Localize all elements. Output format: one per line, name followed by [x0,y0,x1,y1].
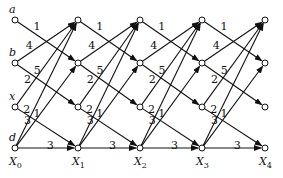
edge-weight-label: 4 [150,39,157,52]
edge-weight-label: 1 [221,20,228,33]
edge-weight-label: 1 [96,107,103,120]
edge-weight-label: 1 [96,20,103,33]
edge-weight-label: 3 [47,139,54,152]
edge-weight-label: 4 [26,39,33,52]
edge-weight-label: 2 [24,73,31,86]
edge-weight-label: 3 [149,114,156,127]
edge-weight-label: 4 [213,39,220,52]
node-a-3 [199,17,205,23]
node-x-0 [12,104,18,110]
node-a-1 [75,17,81,23]
edge-weight-label: 3 [171,139,178,152]
node-d-0 [12,145,18,151]
edge-weight-label: 3 [234,139,241,152]
edge-weight-label: 5 [96,64,103,77]
edge-weight-label: 1 [158,107,165,120]
nodes [12,17,268,151]
node-a-4 [262,17,268,23]
edge-weight-label: 1 [158,20,165,33]
node-x-4 [262,104,268,110]
edge-weight-label: 1 [33,107,40,120]
trellis-diagram: 14521233145212331452123314521233X0X1X2X3… [0,0,283,178]
node-a-0 [12,17,18,23]
stage-label: X3 [195,155,209,170]
node-x-3 [199,104,205,110]
edge-weight-label: 2 [211,73,218,86]
edge-x-a [17,23,76,104]
node-d-3 [199,145,205,151]
row-label-a: a [9,3,16,16]
node-d-1 [75,145,81,151]
edge-weight-label: 1 [220,107,227,120]
edge-weight-label: 3 [87,114,94,127]
node-x-1 [75,104,81,110]
stage-label: X1 [71,155,85,170]
node-b-1 [75,60,81,66]
row-label-d: d [9,131,16,144]
edge-x-a [80,23,138,104]
node-d-4 [262,145,268,151]
row-label-x: x [9,90,16,103]
node-a-2 [137,17,143,23]
edge-weight-label: 3 [109,139,116,152]
edge-x-a [142,23,200,104]
edge-weight-label: 5 [158,64,165,77]
edges [16,22,263,148]
stage-label: X4 [258,155,272,170]
trellis-graph: 14521233145212331452123314521233X0X1X2X3… [0,0,283,178]
stage-label: X0 [8,155,22,170]
edge-weight-label: 2 [149,73,156,86]
edge-weight-label: 2 [87,73,94,86]
edge-weight-label: 4 [88,39,95,52]
edge-weight-label: 3 [24,114,31,127]
edge-x-a [204,23,263,104]
node-x-2 [137,104,143,110]
stage-label: X2 [133,155,147,170]
node-b-4 [262,60,268,66]
edge-weight-label: 3 [211,114,218,127]
node-d-2 [137,145,143,151]
row-label-b: b [9,46,16,59]
node-b-0 [12,60,18,66]
node-b-3 [199,60,205,66]
node-b-2 [137,60,143,66]
edge-weight-label: 1 [34,20,41,33]
edge-weight-label: 5 [34,64,41,77]
edge-weight-label: 5 [221,64,228,77]
